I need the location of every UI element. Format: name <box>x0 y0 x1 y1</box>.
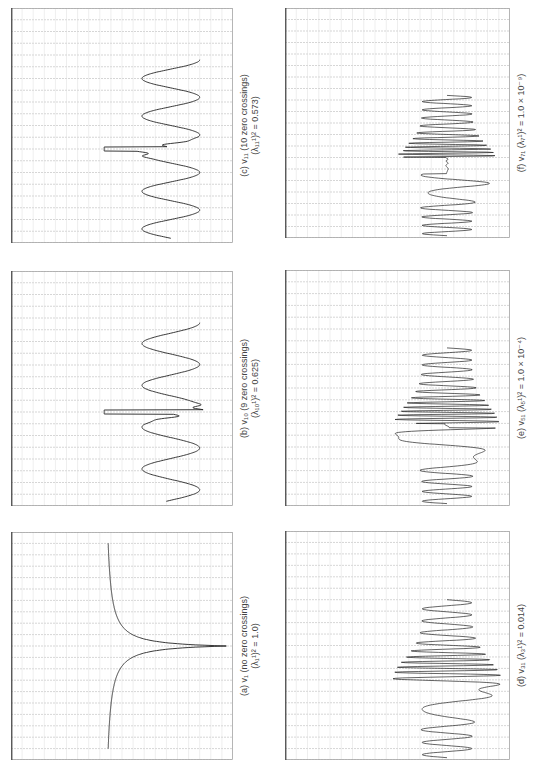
caption-e: (e) v₅₁ (λ₅¹)² = 1.0 × 10⁻⁴) <box>516 270 527 506</box>
curve-f <box>399 95 495 235</box>
plot-d <box>285 531 510 760</box>
caption-b: (b) v₁₀ (9 zero crossings)(λ₁₀¹)² = 0.62… <box>239 271 261 506</box>
caption-line1: (a) v₁ (no zero crossings) <box>239 532 250 760</box>
plot-a <box>11 532 233 760</box>
caption-line1: (e) v₅₁ (λ₅¹)² = 1.0 × 10⁻⁴) <box>516 270 527 506</box>
plot-c <box>11 8 233 243</box>
plot-panel-c <box>11 8 233 243</box>
plot-panel-e <box>285 270 510 506</box>
plot-panel-b <box>11 271 233 506</box>
caption-a: (a) v₁ (no zero crossings)(λ₁¹)² = 1.0) <box>239 532 261 760</box>
caption-d: (d) v₃₁ (λ₃¹)² = 0.014) <box>516 531 527 760</box>
caption-line1: (f) v₇₁ (λ₇¹)² = 1.0 × 10⁻⁹) <box>516 8 527 238</box>
caption-line1: (d) v₃₁ (λ₃¹)² = 0.014) <box>516 531 527 760</box>
plot-f <box>285 8 510 238</box>
caption-c: (c) v₁₁ (10 zero crossings)(λ₁₁¹)² = 0.5… <box>239 8 261 243</box>
caption-line1: (c) v₁₁ (10 zero crossings) <box>239 8 250 243</box>
caption-f: (f) v₇₁ (λ₇¹)² = 1.0 × 10⁻⁹) <box>516 8 527 238</box>
curve-d <box>393 600 500 758</box>
caption-line2: (λ₁₀¹)² = 0.625) <box>250 271 261 506</box>
caption-line2: (λ₁₁¹)² = 0.573) <box>250 8 261 243</box>
caption-line2: (λ₁¹)² = 1.0) <box>250 532 261 760</box>
plot-panel-a <box>11 532 233 760</box>
plot-b <box>11 271 233 506</box>
plot-panel-f <box>285 8 510 238</box>
caption-line1: (b) v₁₀ (9 zero crossings) <box>239 271 250 506</box>
plot-e <box>285 270 510 506</box>
curve-e <box>395 348 499 504</box>
plot-panel-d <box>285 531 510 760</box>
